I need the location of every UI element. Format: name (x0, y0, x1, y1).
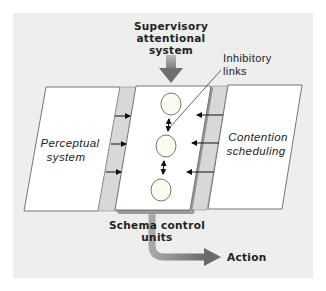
schema-label-line1: Schema control (109, 219, 205, 231)
contention-label-line2: scheduling (227, 145, 286, 157)
schema-panel-bottom (115, 210, 194, 214)
supervisory-label-line1: Supervisory (134, 20, 208, 32)
diagram-canvas: Supervisory attentional system Inhibitor… (0, 0, 326, 291)
schema-label-line2: units (141, 231, 172, 243)
schema-unit-2 (156, 135, 176, 157)
supervisory-label-line2: attentional (136, 32, 205, 44)
perceptual-label-line2: system (47, 151, 86, 163)
supervisory-label-line3: system (149, 44, 193, 56)
perceptual-label-line1: Perceptual (41, 137, 100, 149)
schema-unit-3 (151, 179, 171, 201)
schema-unit-1 (161, 93, 181, 115)
inhibitory-label-line1: Inhibitory (223, 52, 272, 64)
inhibitory-label-line2: links (223, 65, 247, 77)
action-label: Action (227, 251, 266, 263)
contention-label-line1: Contention (228, 131, 288, 143)
